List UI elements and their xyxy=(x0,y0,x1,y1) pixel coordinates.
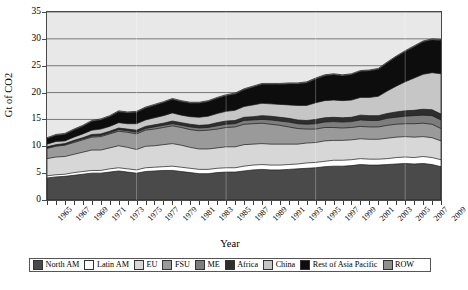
x-tick-label: 2003 xyxy=(396,205,414,223)
y-tick-mark xyxy=(42,93,46,94)
y-tick-label: 20 xyxy=(32,88,42,98)
legend-swatch-icon xyxy=(33,260,43,270)
x-tick-label: 1965 xyxy=(56,205,74,223)
legend-label: North AM xyxy=(46,261,80,269)
x-tick-label: 2005 xyxy=(414,205,432,223)
legend-swatch-icon xyxy=(225,260,235,270)
x-tick-label: 1967 xyxy=(74,205,92,223)
y-axis-title: Gt of CO2 xyxy=(3,73,14,117)
y-tick-mark xyxy=(42,173,46,174)
y-tick-mark xyxy=(42,39,46,40)
x-axis-title: Year xyxy=(0,238,460,249)
y-axis-title-wrapper: Gt of CO2 xyxy=(8,0,9,190)
legend-label: Latin AM xyxy=(97,261,129,269)
y-tick-mark xyxy=(42,119,46,120)
x-tick-label: 2009 xyxy=(450,205,468,223)
y-tick-label: 35 xyxy=(32,7,42,17)
legend-label: ROW xyxy=(395,261,414,269)
y-tick-label: 30 xyxy=(32,34,42,44)
x-tick-label: 1987 xyxy=(253,205,271,223)
x-tick-label: 1993 xyxy=(307,205,325,223)
x-tick-label: 1989 xyxy=(271,205,289,223)
x-tick-label: 1971 xyxy=(110,205,128,223)
x-tick-label: 1991 xyxy=(289,205,307,223)
y-tick-label: 0 xyxy=(36,195,41,205)
plot-area: 05101520253035 xyxy=(46,11,442,201)
legend-swatch-icon xyxy=(84,260,94,270)
legend-item[interactable]: Rest of Asia Pacific xyxy=(300,260,377,270)
legend-swatch-icon xyxy=(162,260,172,270)
legend-item[interactable]: EU xyxy=(134,260,157,270)
chart-legend: North AMLatin AMEUFSUMEAfricaChinaRest o… xyxy=(29,258,431,272)
y-tick-label: 10 xyxy=(32,142,42,152)
x-tick-label: 1995 xyxy=(324,205,342,223)
x-tick-label: 1973 xyxy=(127,205,145,223)
x-tick-label: 1997 xyxy=(342,205,360,223)
legend-swatch-icon xyxy=(134,260,144,270)
legend-label: EU xyxy=(146,261,157,269)
y-tick-label: 25 xyxy=(32,61,42,71)
stacked-area-svg xyxy=(47,12,441,200)
x-tick-label: 1975 xyxy=(145,205,163,223)
y-tick-label: 15 xyxy=(32,115,42,125)
legend-label: FSU xyxy=(175,261,190,269)
x-tick-label: 1985 xyxy=(235,205,253,223)
y-tick-mark xyxy=(42,12,46,13)
legend-item[interactable]: North AM xyxy=(33,260,79,270)
x-tick-label: 1999 xyxy=(360,205,378,223)
x-tick-label: 1981 xyxy=(199,205,217,223)
x-tick-label: 1969 xyxy=(92,205,110,223)
x-tick-label: 1983 xyxy=(217,205,235,223)
legend-label: Rest of Asia Pacific xyxy=(313,261,378,269)
y-tick-mark xyxy=(42,66,46,67)
x-axis-tick-labels: 1965196719691971197319751977197919811983… xyxy=(46,205,442,241)
legend-label: China xyxy=(276,261,296,269)
y-tick-mark xyxy=(42,146,46,147)
legend-item[interactable]: ROW xyxy=(383,260,415,270)
y-tick-label: 5 xyxy=(36,168,41,178)
legend-swatch-icon xyxy=(300,260,310,270)
x-tick-label: 2007 xyxy=(432,205,450,223)
x-tick-label: 2001 xyxy=(378,205,396,223)
legend-label: ME xyxy=(207,261,219,269)
legend-swatch-icon xyxy=(263,260,273,270)
legend-item[interactable]: FSU xyxy=(162,260,190,270)
legend-item[interactable]: China xyxy=(263,260,295,270)
x-tick-label: 1977 xyxy=(163,205,181,223)
legend-item[interactable]: Africa xyxy=(225,260,258,270)
x-tick-label: 1979 xyxy=(181,205,199,223)
legend-item[interactable]: Latin AM xyxy=(84,260,129,270)
legend-label: Africa xyxy=(237,261,258,269)
legend-swatch-icon xyxy=(383,260,393,270)
legend-item[interactable]: ME xyxy=(195,260,220,270)
legend-swatch-icon xyxy=(195,260,205,270)
plot-frame xyxy=(46,11,442,201)
